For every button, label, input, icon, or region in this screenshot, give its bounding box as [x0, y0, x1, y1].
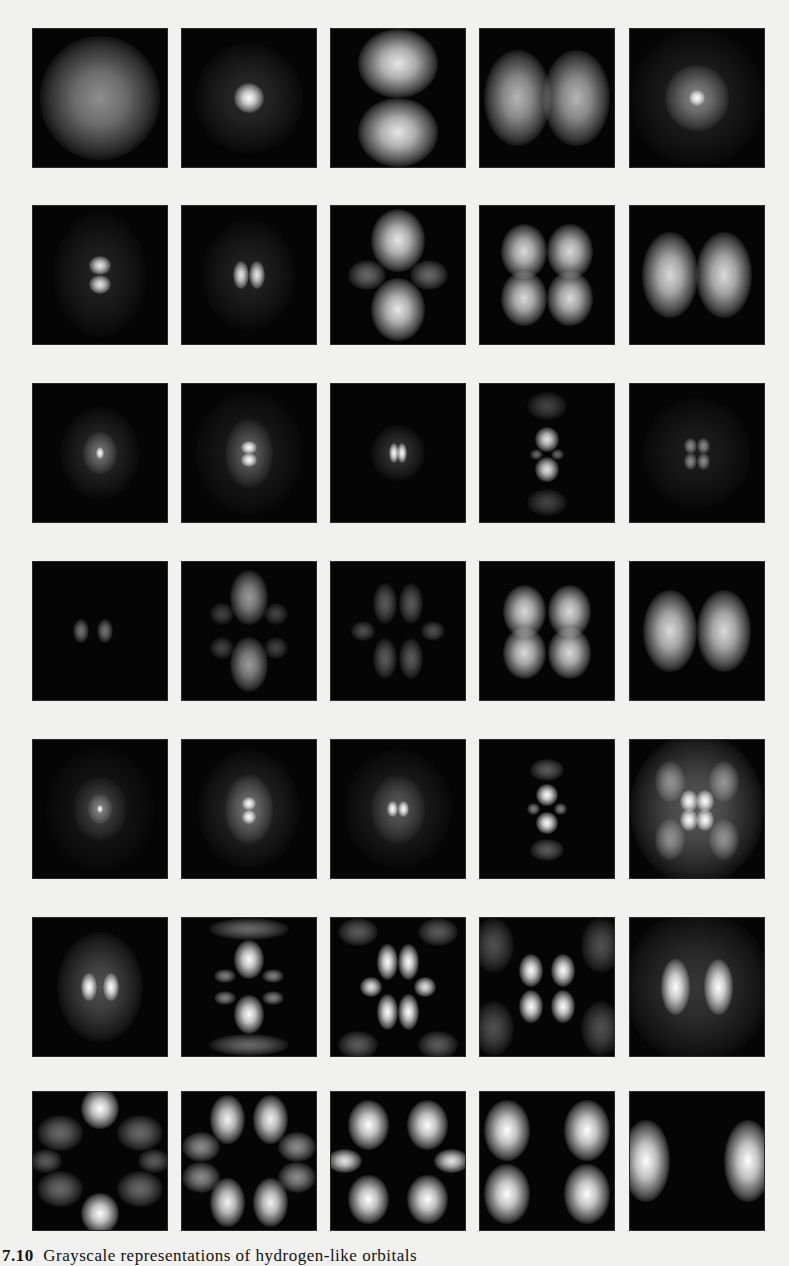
orbital-image-5p-x: [331, 740, 465, 878]
orbital-image-4f-xz2: [331, 562, 465, 700]
orbital-image-4s: [33, 384, 167, 522]
orbital-image-5f-z3: [182, 918, 316, 1056]
orbital-image-5g-x4: [630, 1092, 764, 1230]
orbital-image-5g-x2z2: [331, 1092, 465, 1230]
orbital-image-3d-x2-y2: [630, 206, 764, 344]
orbital-image-4p-x: [331, 384, 465, 522]
orbital-image-2p-z: [331, 29, 465, 167]
orbital-image-4f-xyz: [480, 562, 614, 700]
orbital-image-5s: [33, 740, 167, 878]
orbital-image-4d-x2-y2: [33, 562, 167, 700]
orbital-image-3p-x: [182, 206, 316, 344]
orbital-image-5g-z4: [33, 1092, 167, 1230]
orbital-image-5f-x3: [630, 918, 764, 1056]
orbital-figure-grid: [0, 0, 789, 1240]
orbital-image-5d-z2: [480, 740, 614, 878]
orbital-image-5d-x2-y2: [33, 918, 167, 1056]
caption-text: Grayscale representations of hydrogen-li…: [43, 1246, 417, 1265]
orbital-image-3d-z2: [331, 206, 465, 344]
orbital-image-2p-x: [480, 29, 614, 167]
orbital-image-5f-xyz: [480, 918, 614, 1056]
orbital-image-3s: [630, 29, 764, 167]
orbital-image-5p-z: [182, 740, 316, 878]
orbital-image-1s: [33, 29, 167, 167]
orbital-image-5g-xz3: [182, 1092, 316, 1230]
orbital-image-4d-xz: [630, 384, 764, 522]
orbital-image-5d-xz: [630, 740, 764, 878]
orbital-image-4f-x3: [630, 562, 764, 700]
orbital-image-4p-z: [182, 384, 316, 522]
caption-number: 7.10: [2, 1246, 34, 1265]
orbital-image-3d-xz: [480, 206, 614, 344]
figure-caption: 7.10 Grayscale representations of hydrog…: [2, 1246, 417, 1266]
orbital-image-5f-xz2: [331, 918, 465, 1056]
orbital-image-4d-z2: [480, 384, 614, 522]
orbital-image-3p-z: [33, 206, 167, 344]
orbital-image-5g-xyz2: [480, 1092, 614, 1230]
orbital-image-4f-z3: [182, 562, 316, 700]
orbital-image-2s: [182, 29, 316, 167]
